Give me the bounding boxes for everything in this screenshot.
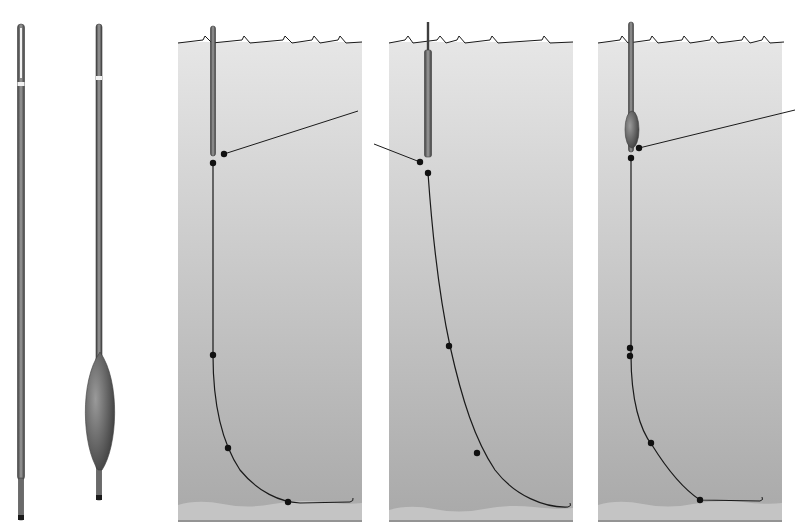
- float-stem: [19, 478, 24, 520]
- water-body: [598, 42, 782, 520]
- float-shaft: [425, 50, 432, 157]
- float-straight-waggler: [18, 24, 25, 520]
- split-shot: [446, 343, 452, 349]
- split-shot: [628, 155, 634, 161]
- split-shot: [285, 499, 291, 505]
- float-sight-band: [18, 82, 25, 86]
- split-shot: [210, 160, 216, 166]
- water-surface: [389, 36, 573, 43]
- panel-rig-3: [598, 22, 795, 521]
- split-shot: [425, 170, 431, 176]
- float-eye: [18, 515, 24, 520]
- split-shot: [474, 450, 480, 456]
- locking-shot: [636, 145, 642, 151]
- float-bodied-waggler: [85, 24, 114, 500]
- float-shaft: [18, 24, 25, 480]
- float-eye: [96, 495, 102, 500]
- water-surface: [598, 36, 784, 43]
- split-shot: [627, 345, 633, 351]
- float-specimens: [18, 24, 115, 520]
- water-surface: [178, 36, 362, 43]
- panel-rig-2: [374, 22, 573, 521]
- rig-panels: [178, 22, 795, 521]
- float-sight-band: [96, 76, 102, 80]
- split-shot: [697, 497, 703, 503]
- split-shot: [225, 445, 231, 451]
- split-shot: [648, 440, 654, 446]
- panel-rig-1: [178, 26, 362, 521]
- locking-shot: [221, 151, 227, 157]
- float-shaft: [211, 26, 216, 156]
- diagram-canvas: [0, 0, 795, 532]
- float-tip-highlight: [20, 28, 22, 78]
- split-shot: [210, 352, 216, 358]
- float-tip: [427, 22, 429, 52]
- water-body: [389, 42, 573, 520]
- water-body: [178, 42, 362, 520]
- float-body: [625, 111, 639, 148]
- locking-shot: [417, 159, 423, 165]
- split-shot: [627, 353, 633, 359]
- float-body: [85, 352, 114, 470]
- fishing-float-rig-diagram: [0, 0, 795, 532]
